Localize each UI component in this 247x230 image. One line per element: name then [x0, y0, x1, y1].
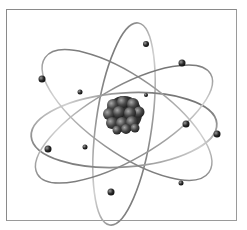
electron — [183, 121, 190, 128]
electron — [39, 76, 46, 83]
electron — [179, 60, 186, 67]
electron — [108, 189, 115, 196]
electron — [179, 181, 184, 186]
atom-diagram — [0, 0, 247, 230]
electron — [214, 131, 221, 138]
electron — [83, 145, 88, 150]
electron — [78, 90, 83, 95]
electron — [45, 146, 52, 153]
nucleus — [103, 96, 145, 135]
electron — [143, 41, 149, 47]
electron — [144, 93, 148, 97]
